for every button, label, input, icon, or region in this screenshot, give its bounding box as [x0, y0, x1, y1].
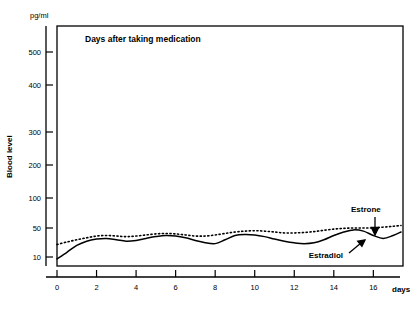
x-tick-label: 12: [290, 283, 298, 292]
plot-title: Days after taking medication: [85, 34, 201, 44]
annotation-label-estrone: Estrone: [351, 205, 381, 214]
y-tick-label: 400: [28, 81, 41, 90]
x-tick-label: 6: [174, 283, 178, 292]
x-tick-label: 0: [55, 283, 59, 292]
x-tick-label: 4: [134, 283, 138, 292]
annotation-label-estradiol: Estradiol: [309, 251, 343, 260]
y-tick-label: 200: [28, 161, 41, 170]
blood-level-line-chart: pg/ml Blood level 1050100200300400500 Da…: [0, 0, 417, 309]
chart-background: [0, 0, 417, 309]
x-tick-label: 16: [369, 283, 377, 292]
x-axis-title: days: [392, 285, 411, 294]
y-tick-label: 500: [28, 48, 41, 57]
y-tick-label: 300: [28, 128, 41, 137]
x-tick-label: 8: [213, 283, 217, 292]
y-tick-label: 10: [33, 253, 41, 262]
y-tick-label: 100: [28, 194, 41, 203]
y-tick-label: 50: [33, 224, 41, 233]
y-axis-unit-label: pg/ml: [30, 11, 49, 20]
y-axis-title: Blood level: [5, 135, 14, 178]
x-tick-label: 10: [251, 283, 259, 292]
x-tick-label: 2: [94, 283, 98, 292]
x-tick-label: 14: [330, 283, 338, 292]
chart-container: pg/ml Blood level 1050100200300400500 Da…: [0, 0, 417, 309]
